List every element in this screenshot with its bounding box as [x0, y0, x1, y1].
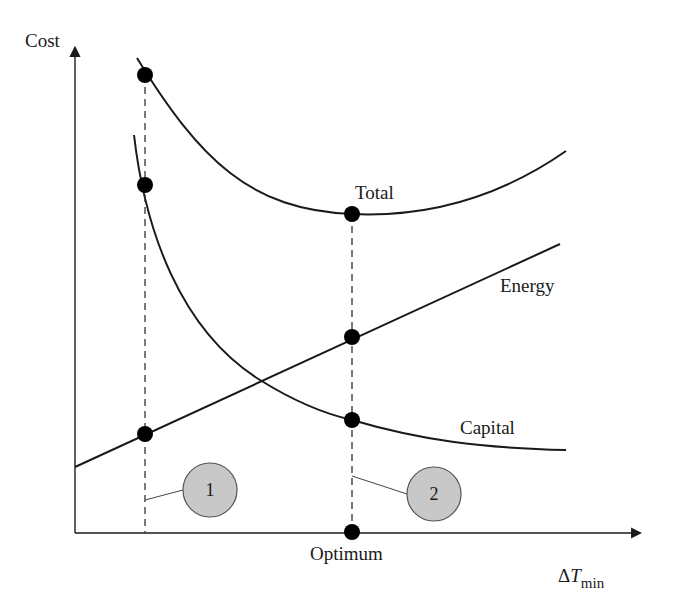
x-axis-label: ΔTmin	[558, 565, 605, 591]
x-axis-label-delta: Δ	[558, 565, 570, 586]
capital-label: Capital	[460, 417, 515, 438]
marker-capital-1	[137, 177, 153, 193]
total-curve	[137, 58, 566, 214]
callout-1-leader	[145, 490, 183, 500]
callout-2-text: 2	[430, 484, 439, 504]
callout-1-text: 1	[206, 480, 215, 500]
x-axis-label-subscript: min	[581, 575, 605, 591]
marker-energy-1	[137, 426, 153, 442]
optimum-label: Optimum	[310, 543, 383, 564]
marker-total-1	[137, 67, 153, 83]
marker-total-optimum	[344, 206, 360, 222]
callout-2-leader	[352, 476, 407, 494]
total-label: Total	[355, 182, 394, 203]
y-axis-label: Cost	[25, 30, 61, 51]
energy-label: Energy	[500, 275, 555, 296]
marker-capital-optimum	[344, 412, 360, 428]
cost-vs-dtmin-diagram: Cost ΔTmin Optimum Total Energy Capital …	[0, 0, 676, 600]
marker-energy-optimum	[344, 329, 360, 345]
marker-optimum-axis	[344, 524, 360, 540]
